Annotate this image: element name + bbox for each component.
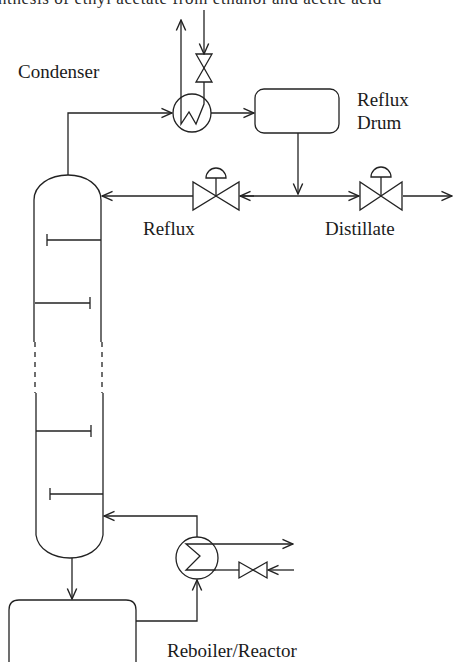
overhead-vapor-line — [68, 113, 172, 175]
coolant-valve[interactable] — [196, 54, 212, 82]
tray-2 — [35, 297, 90, 309]
distillation-column — [34, 175, 103, 558]
tray-4 — [50, 488, 103, 500]
steam-valve[interactable] — [239, 562, 267, 578]
vapor-return-line — [104, 516, 197, 537]
label-reboiler-reactor: Reboiler/Reactor — [167, 640, 297, 661]
column-trays — [35, 234, 103, 500]
label-distillate: Distillate — [325, 218, 395, 239]
diagram-page: nthesis of ethyl acetate from ethanol an… — [0, 0, 464, 662]
reboiler — [176, 537, 294, 579]
reflux-control-valve[interactable] — [193, 168, 239, 210]
label-condenser: Condenser — [18, 61, 99, 82]
distillate-control-valve[interactable] — [360, 167, 402, 210]
reboiler-reactor-vessel — [9, 600, 136, 662]
reflux-drum — [255, 89, 339, 133]
tray-3 — [36, 425, 91, 437]
label-reflux-drum-2: Drum — [357, 112, 401, 133]
reactor-to-reboiler-line — [136, 580, 197, 621]
tray-1 — [47, 234, 101, 246]
label-reflux: Reflux — [143, 218, 195, 239]
label-reflux-drum-1: Reflux — [357, 89, 409, 110]
